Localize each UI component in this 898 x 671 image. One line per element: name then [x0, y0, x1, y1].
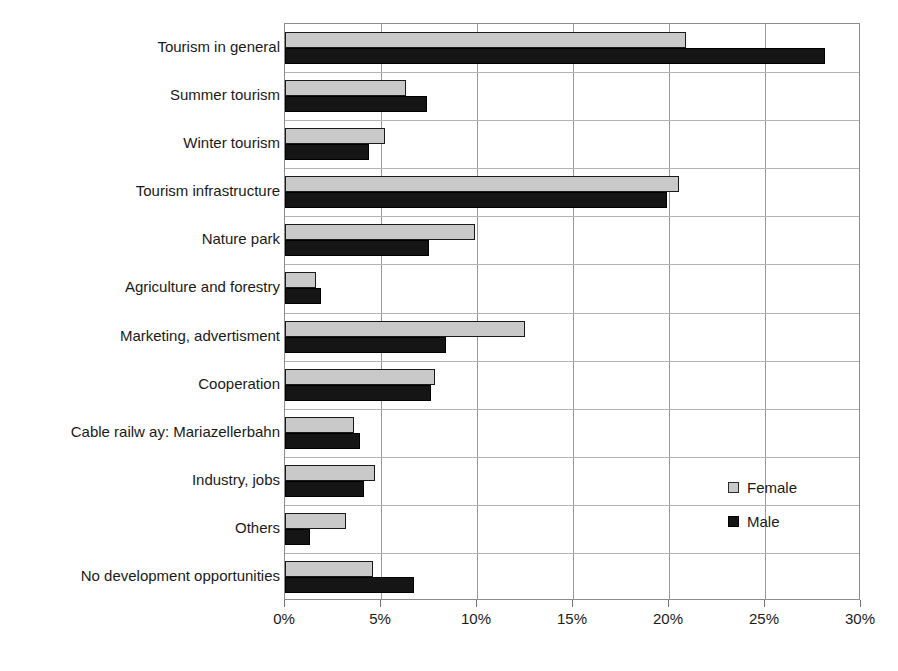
bar-group — [285, 120, 859, 168]
bar-female — [285, 80, 406, 96]
bar-group — [285, 216, 859, 264]
y-axis-label: Summer tourism — [4, 86, 280, 103]
x-axis-tick — [284, 600, 285, 607]
bar-male — [285, 192, 667, 208]
bar-female — [285, 513, 346, 529]
x-axis-tick-label: 20% — [653, 610, 683, 627]
bar-male — [285, 144, 369, 160]
bar-male — [285, 337, 446, 353]
x-axis-tick-label: 25% — [749, 610, 779, 627]
legend-swatch-female-icon — [728, 482, 739, 493]
bar-male — [285, 240, 429, 256]
bar-female — [285, 321, 525, 337]
x-axis-tick — [380, 600, 381, 607]
y-axis-label: Marketing, advertisment — [4, 327, 280, 344]
y-axis-label: Others — [4, 519, 280, 536]
bar-group — [285, 264, 859, 312]
x-axis-tick — [764, 600, 765, 607]
bar-female — [285, 417, 354, 433]
bar-male — [285, 288, 321, 304]
bar-male — [285, 96, 427, 112]
bar-male — [285, 433, 360, 449]
bar-female — [285, 369, 435, 385]
x-axis-tick — [476, 600, 477, 607]
legend-swatch-male-icon — [728, 516, 739, 527]
bar-female — [285, 465, 375, 481]
y-axis-label: Cooperation — [4, 375, 280, 392]
y-axis-label: Nature park — [4, 230, 280, 247]
bar-female — [285, 128, 385, 144]
x-axis-tick-label: 15% — [557, 610, 587, 627]
bar-female — [285, 561, 373, 577]
legend-label-female: Female — [747, 479, 797, 496]
y-axis-label: Cable railw ay: Mariazellerbahn — [4, 423, 280, 440]
bar-group — [285, 553, 859, 601]
bar-group — [285, 361, 859, 409]
y-axis-category-labels: Tourism in generalSummer tourismWinter t… — [0, 23, 280, 600]
x-axis-tick — [860, 600, 861, 607]
chart-legend: Female Male — [728, 470, 838, 538]
x-axis-tick — [572, 600, 573, 607]
bar-group — [285, 72, 859, 120]
bar-female — [285, 176, 679, 192]
y-axis-label: Agriculture and forestry — [4, 278, 280, 295]
y-axis-label: Tourism infrastructure — [4, 182, 280, 199]
y-axis-label: Industry, jobs — [4, 471, 280, 488]
x-axis: 0%5%10%15%20%25%30% — [284, 600, 860, 640]
bar-group — [285, 313, 859, 361]
bar-male — [285, 529, 310, 545]
y-axis-label: Winter tourism — [4, 134, 280, 151]
x-axis-tick-label: 30% — [845, 610, 875, 627]
bar-male — [285, 481, 364, 497]
bar-female — [285, 272, 316, 288]
legend-label-male: Male — [747, 513, 780, 530]
x-axis-tick-label: 10% — [461, 610, 491, 627]
bar-male — [285, 385, 431, 401]
horizontal-bar-chart: Tourism in generalSummer tourismWinter t… — [0, 0, 898, 671]
bar-male — [285, 48, 825, 64]
y-axis-label: Tourism in general — [4, 38, 280, 55]
legend-item-male: Male — [728, 504, 838, 538]
x-axis-tick — [668, 600, 669, 607]
x-axis-tick-label: 0% — [273, 610, 295, 627]
bar-group — [285, 24, 859, 72]
y-axis-label: No development opportunities — [4, 567, 280, 584]
legend-item-female: Female — [728, 470, 838, 504]
bar-male — [285, 577, 414, 593]
bar-group — [285, 409, 859, 457]
bar-female — [285, 224, 475, 240]
bar-female — [285, 32, 686, 48]
x-axis-tick-label: 5% — [369, 610, 391, 627]
bar-group — [285, 168, 859, 216]
